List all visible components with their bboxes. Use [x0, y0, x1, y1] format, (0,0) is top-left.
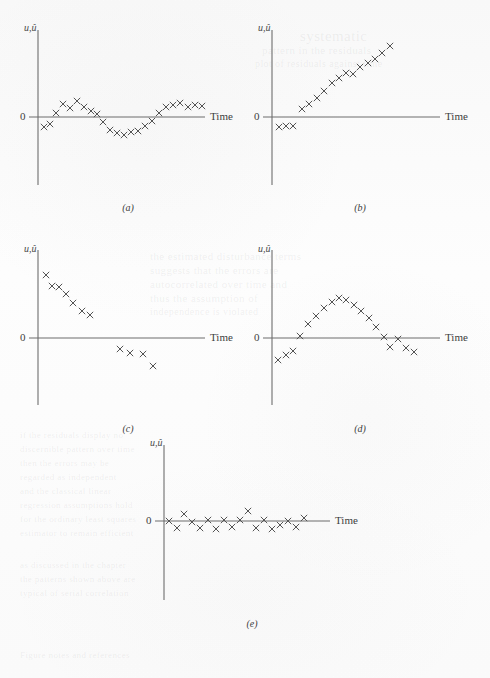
- ghost-text-line: for the ordinary least squares: [20, 514, 136, 524]
- data-point-marker: [128, 129, 134, 135]
- panel-caption-e: (e): [232, 618, 272, 629]
- data-point-marker: [163, 104, 169, 110]
- plot-canvas-e: [0, 0, 490, 678]
- plot-canvas-d: [0, 0, 490, 678]
- data-point-marker: [321, 305, 327, 311]
- ghost-text-line: discernible pattern over time: [20, 444, 135, 454]
- y-axis-label-e: u,û: [150, 437, 163, 448]
- data-point-marker: [199, 103, 205, 109]
- data-point-marker: [403, 345, 409, 351]
- data-point-marker: [81, 104, 87, 110]
- ghost-text-line: regarded as independent: [20, 472, 117, 482]
- data-point-marker: [290, 123, 296, 129]
- data-point-marker: [127, 350, 133, 356]
- data-point-marker: [343, 297, 349, 303]
- data-point-marker: [181, 511, 187, 517]
- residual-plot-panel-d: u,û0Time(d): [0, 0, 490, 678]
- data-point-marker: [329, 299, 335, 305]
- data-point-marker: [213, 526, 219, 532]
- zero-tick-label-e: 0: [146, 514, 152, 526]
- ghost-text-line: systematic: [300, 28, 367, 45]
- data-point-marker: [395, 336, 401, 342]
- data-point-marker: [79, 308, 85, 314]
- data-point-marker: [366, 315, 372, 321]
- data-point-marker: [142, 123, 148, 129]
- data-point-marker: [149, 118, 155, 124]
- data-point-marker: [301, 515, 307, 521]
- data-point-marker: [221, 517, 227, 523]
- data-point-marker: [321, 88, 327, 94]
- ghost-text-line: estimator to remain efficient: [20, 528, 134, 538]
- data-point-marker: [135, 128, 141, 134]
- residual-plot-panel-a: u,û0Time(a): [0, 0, 490, 678]
- y-axis-label-d: u,û: [258, 243, 271, 254]
- y-axis-label-a: u,û: [24, 22, 37, 33]
- data-point-marker: [185, 104, 191, 110]
- data-point-marker: [275, 357, 281, 363]
- data-point-marker: [205, 517, 211, 523]
- data-point-marker: [41, 124, 47, 130]
- panel-caption-c: (c): [108, 423, 148, 434]
- ghost-text-line: the patterns shown above are: [20, 574, 136, 584]
- zero-tick-label-d: 0: [254, 331, 260, 343]
- x-axis-label-b: Time: [445, 110, 468, 122]
- data-point-marker: [70, 300, 76, 306]
- ghost-text-line: if the residuals display no: [20, 430, 123, 440]
- data-point-marker: [237, 517, 243, 523]
- data-point-marker: [379, 50, 385, 56]
- data-point-marker: [299, 106, 305, 112]
- data-point-marker: [67, 105, 73, 111]
- data-point-marker: [88, 108, 94, 114]
- panel-caption-b: (b): [340, 202, 380, 213]
- data-point-marker: [305, 321, 311, 327]
- data-point-marker: [100, 119, 106, 125]
- data-point-marker: [306, 101, 312, 107]
- y-axis-label-b: u,û: [258, 22, 271, 33]
- data-point-marker: [350, 71, 356, 77]
- ghost-text-line: and the classical linear: [20, 486, 111, 496]
- data-point-marker: [313, 313, 319, 319]
- y-axis-label-c: u,û: [24, 243, 37, 254]
- data-point-marker: [372, 56, 378, 62]
- data-point-marker: [336, 295, 342, 301]
- data-point-marker: [381, 334, 387, 340]
- data-point-marker: [365, 60, 371, 66]
- data-point-marker: [166, 518, 172, 524]
- data-point-marker: [47, 121, 53, 127]
- data-point-marker: [150, 363, 156, 369]
- data-point-marker: [189, 519, 195, 525]
- x-axis-label-a: Time: [210, 110, 233, 122]
- data-point-marker: [336, 75, 342, 81]
- data-point-marker: [277, 522, 283, 528]
- data-point-marker: [114, 130, 120, 136]
- data-point-marker: [60, 101, 66, 107]
- data-point-marker: [269, 526, 275, 532]
- data-point-marker: [293, 524, 299, 530]
- ghost-text-line: suggests that the errors are: [150, 264, 279, 276]
- page-background-texture: [0, 0, 490, 678]
- data-point-marker: [261, 517, 267, 523]
- data-point-marker: [177, 100, 183, 106]
- ghost-text-line: the estimated disturbance terms: [150, 250, 301, 262]
- zero-tick-label-a: 0: [20, 110, 26, 122]
- data-point-marker: [117, 346, 123, 352]
- data-point-marker: [290, 348, 296, 354]
- x-axis-label-d: Time: [445, 331, 468, 343]
- ghost-text-line: thus the assumption of: [150, 292, 258, 304]
- ghost-text-line: typical of serial correlation: [20, 588, 129, 598]
- data-point-marker: [245, 508, 251, 514]
- data-point-marker: [174, 525, 180, 531]
- ghost-text-line: independence is violated: [150, 306, 258, 317]
- data-point-marker: [94, 111, 100, 117]
- zero-tick-label-b: 0: [254, 110, 260, 122]
- plot-canvas-c: [0, 0, 490, 678]
- data-point-marker: [121, 132, 127, 138]
- data-point-marker: [297, 333, 303, 339]
- data-point-marker: [87, 312, 93, 318]
- data-point-marker: [140, 351, 146, 357]
- data-point-marker: [156, 110, 162, 116]
- data-point-marker: [253, 525, 259, 531]
- data-point-marker: [107, 127, 113, 133]
- x-axis-label-e: Time: [335, 514, 358, 526]
- data-point-marker: [357, 64, 363, 70]
